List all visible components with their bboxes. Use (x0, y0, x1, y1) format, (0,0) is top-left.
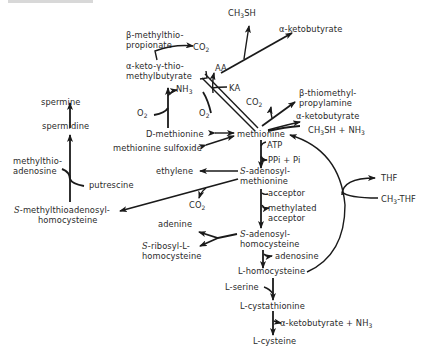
ketobutyrate-mid-label: α-ketobutyrate (296, 111, 359, 121)
beta-methylthiopropionate-label-2: propionate (126, 40, 172, 50)
pathway-diagram: β-methylthio- propionate CO2 CH3SH α-ket… (0, 0, 430, 354)
l-serine-label: L-serine (225, 282, 259, 292)
co2-right-label: CO2 (246, 97, 262, 107)
o2-left-label: O2 (137, 108, 148, 118)
keto-thio-label-2: methylbutyrate (126, 71, 192, 81)
s-methylthioadenosylhomocysteine-label-2: homocysteine (38, 215, 98, 225)
methionine-sulfoxide-label: methionine sulfoxide (113, 143, 202, 153)
ch3sh-nh3-label: CH3SH + NH3 (308, 125, 365, 135)
ka-label: KA (229, 83, 240, 93)
ketobutyrate-bottom-label: α-ketobutyrate + NH3 (280, 318, 372, 328)
l-homocysteine-label: L-homocysteine (238, 266, 305, 276)
d-methionine-label: D-methionine (146, 129, 204, 139)
methylated-acceptor-label: methylated (268, 203, 317, 213)
thiomethylpropylamine-label-2: propylamine (299, 98, 352, 108)
co2-lower-label: CO2 (189, 200, 205, 210)
thiomethylpropylamine-label: β-thiomethyl- (299, 88, 356, 98)
l-cysteine-label: L-cysteine (253, 336, 296, 346)
adenine-label: adenine (158, 219, 192, 229)
s-ribosyl-homocysteine-label: S-ribosyl-L- (142, 241, 190, 251)
s-methylthioadenosylhomocysteine-label: S-methylthioadenosyl- (14, 205, 110, 215)
methionine-label: methionine (237, 129, 285, 139)
co2-top-label: CO2 (193, 42, 209, 52)
thf-label: THF (381, 173, 397, 183)
aa-label: AA (215, 63, 227, 73)
methylated-acceptor-label-2: acceptor (268, 213, 305, 223)
beta-methylthiopropionate-label: β-methylthio- (126, 30, 184, 40)
spermidine-label: spermidine (42, 121, 89, 131)
nh3-upper-label: NH3 (176, 84, 193, 94)
methylthioadenosine-label: methylthio- (13, 156, 62, 166)
s-adenosylmethionine-label: S-adenosyl- (240, 166, 290, 176)
ch3sh-top-label: CH3SH (228, 8, 256, 18)
putrescine-label: putrescine (89, 180, 134, 190)
ketobutyrate-top-label: α-ketobutyrate (279, 24, 342, 34)
l-cystathionine-label: L-cystathionine (240, 301, 305, 311)
ethylene-label: ethylene (156, 166, 193, 176)
s-adenosylmethionine-label-2: methionine (240, 176, 288, 186)
adenosine-label: adenosine (275, 251, 319, 261)
s-adenosylhomocysteine-label: S-adenosyl- (240, 229, 290, 239)
methylthioadenosine-label-2: adenosine (13, 166, 57, 176)
keto-thio-label: α-keto-γ-thio- (126, 61, 184, 71)
s-adenosylhomocysteine-label-2: homocysteine (240, 239, 300, 249)
acceptor-label: acceptor (268, 188, 305, 198)
pathway-arrows (0, 0, 430, 354)
atp-label: ATP (267, 140, 282, 150)
ch3-thf-label: CH3-THF (381, 194, 416, 204)
ppi-pi-label: PPi + Pi (268, 155, 300, 165)
s-ribosyl-homocysteine-label-2: homocysteine (142, 251, 202, 261)
spermine-label: spermine (41, 97, 81, 107)
o2-right-label: O2 (199, 108, 210, 118)
